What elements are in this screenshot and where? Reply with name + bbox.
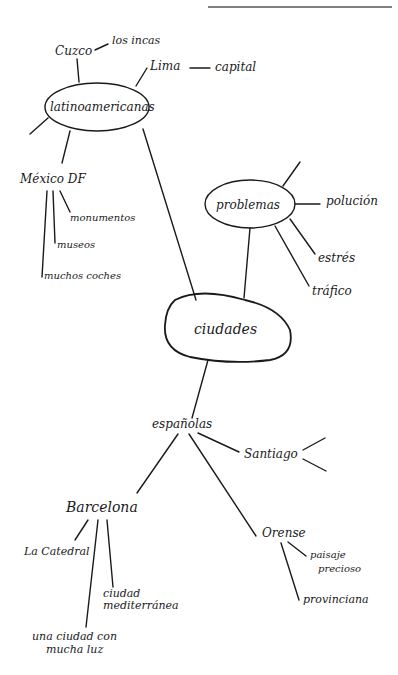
node-mucha-luz: mucha luz (46, 643, 103, 656)
node-problemas: problemas (216, 198, 280, 212)
edge-orense-paisaje (288, 542, 306, 556)
node-estres: estrés (318, 251, 355, 265)
node-mediterranea: mediterránea (103, 599, 179, 612)
edge-santiago-stub-1 (303, 438, 325, 450)
edge-problemas-trafico (275, 226, 309, 286)
edge-cuzco-incas (95, 44, 108, 50)
edge-santiago-stub-2 (303, 459, 326, 471)
node-orense: Orense (262, 526, 306, 540)
edge-latino-lima (136, 68, 147, 86)
node-trafico: tráfico (312, 284, 352, 298)
edge-latino-mexico (62, 131, 70, 163)
node-precioso: precioso (318, 563, 361, 574)
node-muchos-coches: muchos coches (44, 270, 121, 281)
edge-ciudades-espanolas (192, 360, 208, 418)
edge-barcelona-catedral (75, 520, 88, 540)
edge-mexico-museos (53, 191, 55, 243)
node-monumentos: monumentos (70, 212, 135, 223)
edge-problemas-ciudades (244, 228, 250, 298)
node-santiago: Santiago (244, 447, 298, 461)
edge-problemas-stub (283, 162, 300, 186)
node-una-ciudad-con: una ciudad con (32, 630, 117, 643)
edge-latino-ciudades (143, 129, 196, 300)
edge-espanolas-barcelona (137, 434, 178, 493)
edge-barcelona-mediterranea (107, 520, 113, 587)
edge-barcelona-luz (86, 520, 98, 627)
node-provinciana: provinciana (303, 593, 369, 606)
node-mexico-df: México DF (19, 172, 86, 186)
node-la-catedral: La Catedral (23, 545, 90, 558)
edge-latino-stub (30, 118, 48, 134)
node-museos: museos (57, 239, 95, 250)
edge-latino-cuzco (77, 59, 79, 82)
node-lima: Lima (149, 59, 180, 73)
node-los-incas: los incas (112, 34, 161, 47)
node-capital: capital (215, 60, 256, 74)
node-cuzco: Cuzco (55, 44, 92, 58)
node-ciudades: ciudades (194, 321, 257, 337)
edge-mexico-monumentos (60, 191, 70, 212)
edge-problemas-estres (290, 219, 315, 254)
node-barcelona: Barcelona (65, 499, 138, 515)
mind-map-diagram: latinoamericanas Cuzco los incas Lima ca… (0, 0, 398, 675)
node-paisaje: paisaje (310, 549, 346, 560)
node-latinoamericanas: latinoamericanas (50, 100, 155, 114)
node-espanolas: españolas (152, 417, 212, 431)
edge-mexico-coches (42, 191, 47, 277)
node-polucion: polución (326, 194, 378, 208)
edge-espanolas-santiago (198, 433, 239, 452)
edge-orense-provinciana (281, 543, 299, 600)
